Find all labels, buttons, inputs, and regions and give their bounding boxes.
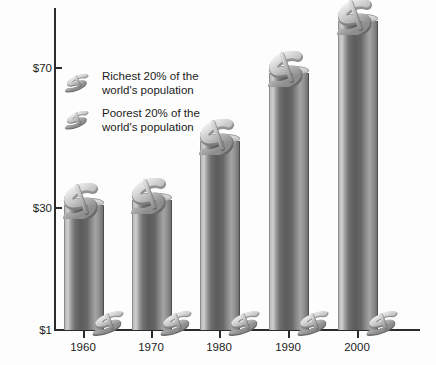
x-axis-tick-mark <box>357 331 359 338</box>
legend-label-line2: world's population <box>102 120 200 134</box>
y-axis-tick-mark <box>54 67 62 69</box>
y-axis-tick: $70 <box>0 61 66 75</box>
bar-top-cap <box>338 14 378 23</box>
bar-top-cap <box>132 193 172 202</box>
x-axis-tick-label: 1970 <box>126 341 176 353</box>
legend-item-label: Richest 20% of the world's population <box>102 68 199 97</box>
y-axis-tick-label: $30 <box>33 201 52 215</box>
legend-label-line2: world's population <box>102 83 199 97</box>
y-axis-tick-mark <box>54 207 62 209</box>
legend-item: Poorest 20% of the world's population <box>62 105 222 135</box>
legend-item: Richest 20% of the world's population <box>62 68 222 98</box>
y-axis-tick: $1 <box>0 323 66 337</box>
dollar-sign-3d-icon <box>62 70 96 96</box>
bar-1990 <box>269 73 309 330</box>
chart-legend: Richest 20% of the world's population <box>62 68 222 142</box>
legend-item-label: Poorest 20% of the world's population <box>102 105 200 134</box>
bar-1980 <box>200 141 240 330</box>
bar-chart: $70 $30 $1 19601970198019902000 <box>0 0 436 365</box>
bar-1960 <box>64 205 104 330</box>
y-axis-tick-label: $70 <box>33 61 52 75</box>
x-axis-tick-label: 1980 <box>194 341 244 353</box>
x-axis-tick-mark <box>151 331 153 338</box>
x-axis-tick-label: 1960 <box>58 341 108 353</box>
bar-2000 <box>338 21 378 330</box>
dollar-sign-3d-icon <box>62 107 96 133</box>
x-axis-tick-mark <box>219 331 221 338</box>
x-axis-tick-mark <box>288 331 290 338</box>
legend-label-line1: Richest 20% of the <box>102 70 199 82</box>
bar-top-cap <box>64 198 104 207</box>
y-axis-tick-mark <box>54 329 62 331</box>
y-axis-line <box>54 8 56 331</box>
bar-top-cap <box>269 66 309 75</box>
y-axis-tick-label: $1 <box>39 323 52 337</box>
y-axis-tick: $30 <box>0 201 66 215</box>
bar-1970 <box>132 200 172 330</box>
x-axis-tick-label: 2000 <box>332 341 382 353</box>
x-axis-tick-label: 1990 <box>263 341 313 353</box>
legend-label-line1: Poorest 20% of the <box>102 107 200 119</box>
x-axis-tick-mark <box>83 331 85 338</box>
